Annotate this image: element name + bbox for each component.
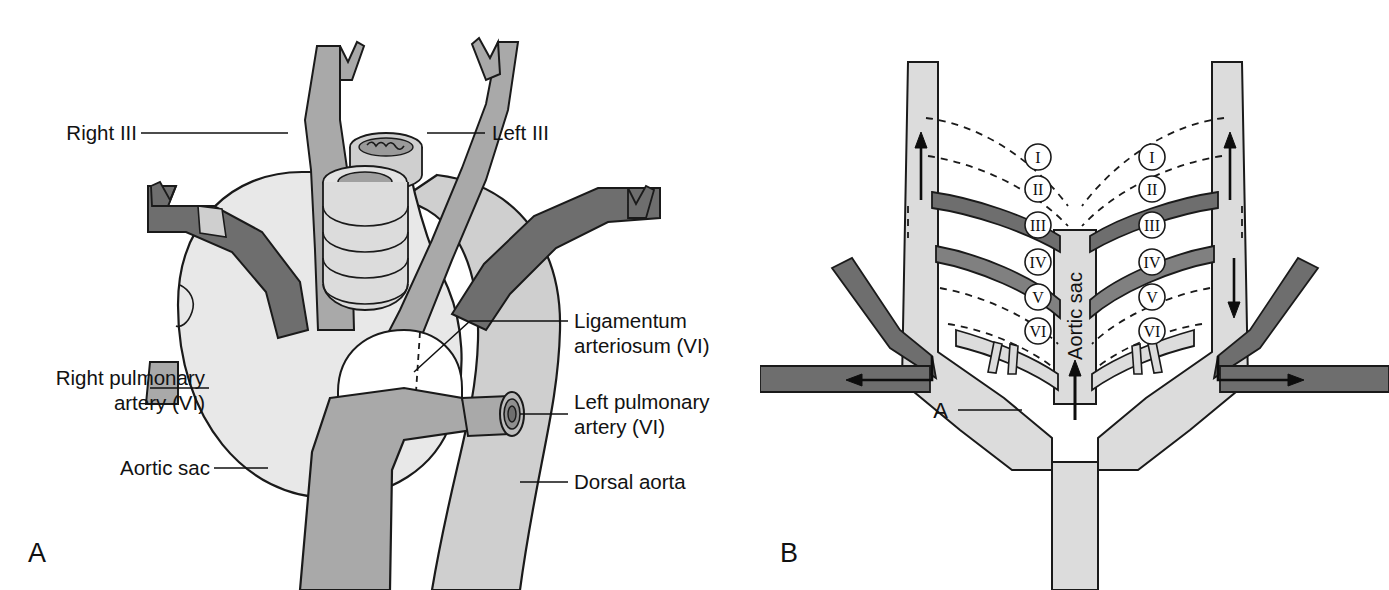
arch-numeral-right-vi-text: VI: [1144, 323, 1161, 340]
arch-numeral-right-i-text: I: [1149, 149, 1154, 166]
arch-numeral-left-v: V: [1025, 284, 1051, 310]
arch-numeral-right-iii-text: III: [1144, 217, 1160, 234]
label-aortic-sac-vertical: Aortic sac: [1064, 272, 1086, 360]
label-left-pulmonary-line2: artery (VI): [574, 415, 665, 438]
arch-numeral-left-iv-text: IV: [1030, 254, 1047, 271]
panel-b-letter: B: [780, 538, 798, 569]
label-ligamentum-line2: arteriosum (VI): [574, 334, 710, 357]
arch-numeral-left-i-text: I: [1035, 149, 1040, 166]
arch-numeral-right-v: V: [1139, 284, 1165, 310]
label-right-pulmonary-line1: Right pulmonary: [56, 366, 206, 389]
label-right-iii: Right III: [66, 121, 137, 144]
arch-numeral-right-vi: VI: [1139, 318, 1165, 344]
label-a-marker: A: [933, 398, 948, 423]
arch-numeral-left-v-text: V: [1032, 289, 1044, 306]
figure-root: Right III Left III Ligamentum arteriosum…: [0, 0, 1389, 590]
arch-numeral-left-ii-text: II: [1033, 181, 1044, 198]
arch-numeral-left-vi: VI: [1025, 318, 1051, 344]
arch-numeral-right-v-text: V: [1146, 289, 1158, 306]
arch-numeral-left-iii-text: III: [1030, 217, 1046, 234]
label-left-pulmonary-line1: Left pulmonary: [574, 390, 710, 413]
panel-a: Right III Left III Ligamentum arteriosum…: [0, 0, 760, 590]
arch-numeral-right-ii: II: [1139, 176, 1165, 202]
panel-b-graphic: I II III IV V: [760, 0, 1389, 590]
label-dorsal-aorta: Dorsal aorta: [574, 470, 686, 493]
arch-numeral-left-i: I: [1025, 144, 1051, 170]
arch-numeral-group-right: I II III IV V: [1139, 144, 1165, 344]
label-left-iii: Left III: [492, 121, 549, 144]
arch-numeral-left-ii: II: [1025, 176, 1051, 202]
panel-a-letter: A: [28, 538, 46, 569]
arch-numeral-left-iv: IV: [1025, 249, 1051, 275]
panel-a-graphic: Right III Left III Ligamentum arteriosum…: [0, 0, 760, 590]
label-ligamentum-line1: Ligamentum: [574, 309, 687, 332]
arch-numeral-right-iv: IV: [1139, 249, 1165, 275]
panel-b: I II III IV V: [760, 0, 1389, 590]
label-aortic-sac: Aortic sac: [120, 456, 210, 479]
arch-numeral-left-vi-text: VI: [1030, 323, 1047, 340]
arch-numeral-right-iv-text: IV: [1144, 254, 1161, 271]
arch-numeral-right-iii: III: [1139, 212, 1165, 238]
arch-numeral-right-i: I: [1139, 144, 1165, 170]
arch-numeral-right-ii-text: II: [1147, 181, 1158, 198]
arch-numeral-left-iii: III: [1025, 212, 1051, 238]
label-right-pulmonary-line2: artery (VI): [114, 391, 205, 414]
